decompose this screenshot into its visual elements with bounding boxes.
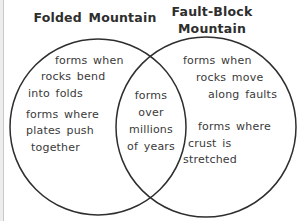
right-fact1-line3: along faults: [208, 88, 277, 101]
venn-diagram: Folded Mountain Fault-Block Mountain for…: [0, 0, 304, 221]
left-fact2-line2: plates push: [26, 124, 94, 137]
left-fact2-line3: together: [31, 141, 80, 154]
left-fact1-line1: forms when: [55, 54, 124, 67]
right-fact2-line2: crust is: [188, 137, 231, 150]
center-line1: forms: [111, 89, 191, 102]
left-fact2-line1: forms where: [26, 108, 99, 121]
right-circle-title-line2: Mountain: [162, 21, 262, 36]
center-line4: of years: [111, 140, 191, 153]
left-fact1-line2: rocks bend: [41, 70, 105, 83]
left-fact1-line3: into folds: [28, 87, 83, 100]
right-fact2-line1: forms where: [198, 120, 271, 133]
right-fact1-line1: forms when: [183, 54, 252, 67]
center-line2: over: [111, 106, 191, 119]
center-line3: millions: [111, 123, 191, 136]
right-fact1-line2: rocks move: [196, 71, 263, 84]
right-circle-title-line1: Fault-Block: [162, 4, 262, 19]
left-circle-title: Folded Mountain: [30, 10, 160, 25]
right-fact2-line3: stretched: [183, 153, 237, 166]
